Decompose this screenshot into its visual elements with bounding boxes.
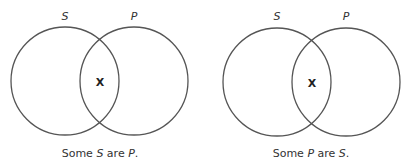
label-s: S [62,10,69,23]
venn-diagrams: S P X Some S are P. S P X Some P are S. [0,0,416,164]
label-p: P [343,10,350,23]
venn-some-p-are-s: S P X Some P are S. [223,10,400,160]
label-s: S [274,10,281,23]
existence-mark-x: X [96,76,105,89]
venn-some-s-are-p: S P X Some S are P. [11,10,188,160]
caption: Some P are S. [273,147,350,160]
existence-mark-x: X [308,77,317,90]
caption: Some S are P. [62,147,139,160]
label-p: P [131,10,138,23]
